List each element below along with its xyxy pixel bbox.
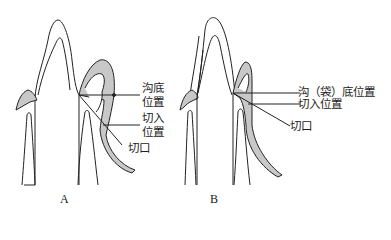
tooth-a [35, 20, 79, 98]
panel-label-a: A [60, 192, 69, 207]
panel-label-b: B [210, 192, 218, 207]
label-a-sulcus-bottom-line1: 沟底 [142, 82, 164, 95]
label-a-incision: 切口 [128, 142, 150, 155]
label-b-incision-position: 切入位置 [298, 98, 342, 111]
label-a-incision-position-line1: 切入 [142, 112, 164, 125]
label-a-sulcus-bottom-line2: 位置 [142, 96, 164, 109]
label-a-incision-position-line2: 位置 [142, 126, 164, 139]
label-b-incision: 切口 [290, 120, 312, 133]
